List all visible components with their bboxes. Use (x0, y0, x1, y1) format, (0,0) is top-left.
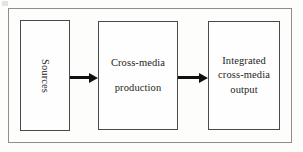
node-label-output-line-3: output (230, 84, 257, 95)
arrow-head-icon (199, 73, 208, 83)
node-label-output-line-1: Integrated (222, 55, 266, 66)
node-box-output[interactable]: Integrated cross-media output (208, 21, 280, 130)
node-box-sources[interactable]: Sources (20, 20, 70, 131)
arrow-shaft (178, 76, 200, 79)
arrow-sources-to-production (70, 76, 98, 79)
scan-artifact-speck (2, 1, 8, 6)
diagram-canvas: Sources Cross-media production Integrate… (0, 0, 303, 152)
arrow-production-to-output (178, 76, 208, 79)
node-box-production[interactable]: Cross-media production (98, 21, 178, 130)
arrow-shaft (70, 76, 90, 79)
node-label-output: Integrated cross-media output (218, 54, 270, 97)
node-label-production-line-1: Cross-media (111, 57, 165, 68)
node-label-production: Cross-media production (111, 51, 165, 99)
node-label-production-line-2: production (115, 82, 162, 93)
arrow-head-icon (89, 73, 98, 83)
node-label-output-line-2: cross-media (218, 69, 270, 80)
node-label-sources: Sources (38, 59, 51, 93)
